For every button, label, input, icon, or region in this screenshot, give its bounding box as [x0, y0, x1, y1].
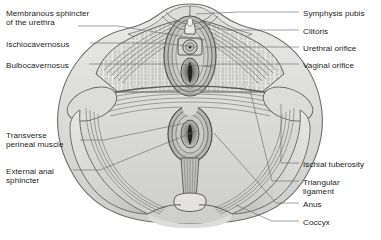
clitoris-glans — [187, 18, 192, 26]
label-anus: Anus — [303, 200, 322, 209]
anatomical-figure: Membranous sphincter of the urethra Isch… — [0, 0, 381, 240]
label-external-anal-sphincter: External anal sphincter — [6, 167, 54, 186]
label-urethral-orifice: Urethral orifice — [303, 44, 356, 53]
label-bulbocavernosus: Bulbocavernosus — [6, 61, 69, 70]
label-clitoris: Clitoris — [303, 27, 328, 36]
label-triangular-ligament: Triangular ligament — [303, 178, 340, 197]
label-ischial-tuberosity: Ischial tuberosity — [303, 160, 364, 169]
label-coccyx: Coccyx — [303, 218, 330, 227]
label-symphysis-pubis: Symphysis pubis — [303, 9, 364, 18]
label-membranous-sphincter-of-the-urethra: Membranous sphincter of the urethra — [6, 9, 89, 28]
coccyx — [174, 193, 206, 212]
label-vaginal-orifice: Vaginal orifice — [303, 61, 354, 70]
label-ischiocavernosus: Ischiocavernosus — [6, 40, 69, 49]
label-transverse-perineal-muscle: Transverse perineal muscle — [6, 131, 63, 150]
